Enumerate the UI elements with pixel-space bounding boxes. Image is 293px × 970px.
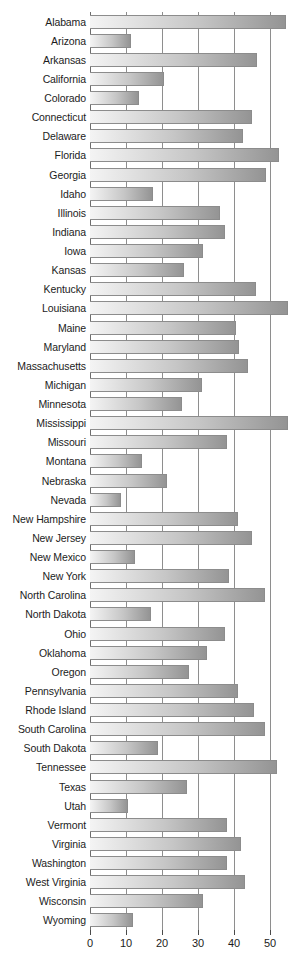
chart-row: New York bbox=[0, 567, 293, 586]
bar bbox=[90, 206, 220, 220]
bar bbox=[90, 110, 252, 124]
bar bbox=[90, 837, 241, 851]
chart-row: New Mexico bbox=[0, 548, 293, 567]
category-label: Michigan bbox=[2, 379, 86, 391]
bar bbox=[90, 856, 227, 870]
category-label: Colorado bbox=[2, 92, 86, 104]
bar bbox=[90, 187, 153, 201]
category-label: Florida bbox=[2, 149, 86, 161]
chart-row: Ohio bbox=[0, 624, 293, 643]
chart-row: South Dakota bbox=[0, 739, 293, 758]
bar-track bbox=[90, 493, 121, 507]
chart-row: Indiana bbox=[0, 222, 293, 241]
bar-track bbox=[90, 780, 187, 794]
chart-row: Utah bbox=[0, 796, 293, 815]
bar-track bbox=[90, 321, 236, 335]
category-label: Illinois bbox=[2, 207, 86, 219]
chart-row: Minnesota bbox=[0, 395, 293, 414]
bar-track bbox=[90, 378, 202, 392]
chart-row: West Virginia bbox=[0, 873, 293, 892]
category-label: Georgia bbox=[2, 169, 86, 181]
bar bbox=[90, 512, 238, 526]
category-label: New Hampshire bbox=[2, 513, 86, 525]
bar-track bbox=[90, 837, 241, 851]
bar-track bbox=[90, 799, 128, 813]
bar bbox=[90, 531, 252, 545]
bar bbox=[90, 894, 203, 908]
bar bbox=[90, 15, 286, 29]
chart-row: Idaho bbox=[0, 184, 293, 203]
bar bbox=[90, 665, 189, 679]
category-label: Delaware bbox=[2, 130, 86, 142]
bar bbox=[90, 359, 248, 373]
bar-track bbox=[90, 818, 227, 832]
category-label: Massachusetts bbox=[2, 360, 86, 372]
bar-track bbox=[90, 34, 131, 48]
chart-row: Florida bbox=[0, 146, 293, 165]
bar-track bbox=[90, 416, 288, 430]
bar bbox=[90, 569, 229, 583]
bar-track bbox=[90, 569, 229, 583]
category-label: Mississippi bbox=[2, 417, 86, 429]
chart-row: Kentucky bbox=[0, 280, 293, 299]
bar bbox=[90, 684, 238, 698]
x-axis: 01020304050 bbox=[0, 930, 293, 970]
chart-row: Mississippi bbox=[0, 414, 293, 433]
chart-row: Texas bbox=[0, 777, 293, 796]
bar-track bbox=[90, 263, 184, 277]
bar-track bbox=[90, 741, 158, 755]
bar-track bbox=[90, 225, 225, 239]
chart-row: Tennessee bbox=[0, 758, 293, 777]
category-label: California bbox=[2, 73, 86, 85]
chart-row: Montana bbox=[0, 452, 293, 471]
chart-row: Missouri bbox=[0, 433, 293, 452]
category-label: Idaho bbox=[2, 188, 86, 200]
bar bbox=[90, 550, 135, 564]
category-label: Ohio bbox=[2, 628, 86, 640]
category-label: Minnesota bbox=[2, 398, 86, 410]
bar-track bbox=[90, 722, 265, 736]
chart-row: Kansas bbox=[0, 261, 293, 280]
category-label: Washington bbox=[2, 857, 86, 869]
bar-track bbox=[90, 665, 189, 679]
category-label: Nevada bbox=[2, 494, 86, 506]
chart-row: North Carolina bbox=[0, 586, 293, 605]
bar bbox=[90, 703, 254, 717]
category-label: West Virginia bbox=[2, 876, 86, 888]
chart-row: Maryland bbox=[0, 337, 293, 356]
bar-track bbox=[90, 856, 227, 870]
category-label: Kentucky bbox=[2, 283, 86, 295]
chart-row: Georgia bbox=[0, 165, 293, 184]
bar-track bbox=[90, 684, 238, 698]
bar bbox=[90, 34, 131, 48]
bar bbox=[90, 263, 184, 277]
bar bbox=[90, 168, 266, 182]
bar bbox=[90, 722, 265, 736]
bar-track bbox=[90, 760, 277, 774]
bar-track bbox=[90, 187, 153, 201]
bar-track bbox=[90, 359, 248, 373]
chart-row: Nebraska bbox=[0, 471, 293, 490]
bar-track bbox=[90, 244, 203, 258]
category-label: Connecticut bbox=[2, 111, 86, 123]
category-label: Maryland bbox=[2, 341, 86, 353]
bar-track bbox=[90, 301, 288, 315]
chart-row: California bbox=[0, 69, 293, 88]
category-label: Arkansas bbox=[2, 54, 86, 66]
bar-track bbox=[90, 703, 254, 717]
bar bbox=[90, 627, 225, 641]
x-tick-label: 30 bbox=[192, 937, 204, 950]
category-label: Vermont bbox=[2, 819, 86, 831]
chart-row: Louisiana bbox=[0, 299, 293, 318]
bar-rows: AlabamaArizonaArkansasCaliforniaColorado… bbox=[0, 12, 293, 930]
bar-track bbox=[90, 894, 203, 908]
category-label: Tennessee bbox=[2, 761, 86, 773]
bar bbox=[90, 301, 288, 315]
category-label: Oklahoma bbox=[2, 647, 86, 659]
chart-row: Arkansas bbox=[0, 50, 293, 69]
x-tick bbox=[270, 930, 271, 935]
category-label: Alabama bbox=[2, 16, 86, 28]
bar-track bbox=[90, 110, 252, 124]
chart-row: Maine bbox=[0, 318, 293, 337]
category-label: North Carolina bbox=[2, 589, 86, 601]
